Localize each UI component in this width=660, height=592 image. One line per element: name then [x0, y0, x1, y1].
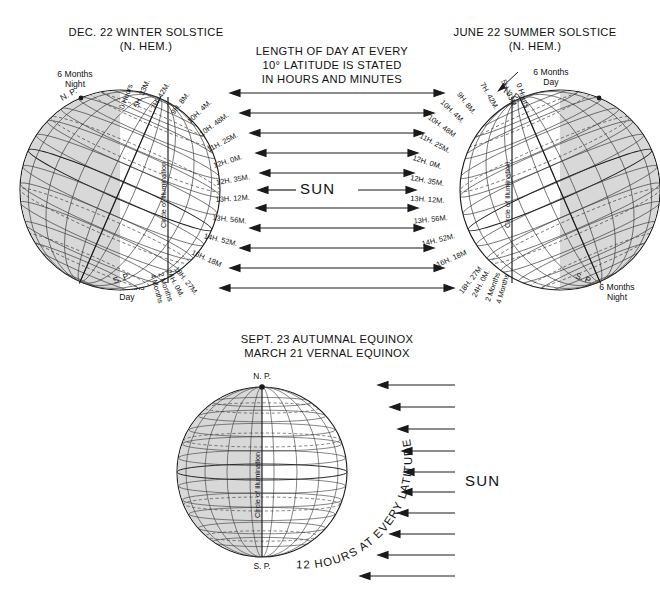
north-pole-dot-winter — [79, 96, 84, 101]
sun-ray — [332, 245, 434, 252]
terminator-label-winter: Circle of illumination — [160, 162, 168, 228]
sun-ray — [332, 150, 418, 157]
sun-ray — [404, 469, 455, 476]
diagram-canvas: DEC. 22 WINTER SOLSTICE (N. HEM.) JUNE 2… — [0, 0, 660, 592]
sun-ray — [240, 110, 332, 117]
terminator-label-summer: Circle of illumination — [504, 162, 512, 228]
sun-ray — [332, 170, 414, 177]
sun-ray — [390, 531, 455, 538]
sun-ray — [230, 90, 332, 97]
sun-ray — [258, 187, 296, 194]
sun-ray — [398, 510, 455, 517]
north-pole-dot-equinox — [259, 384, 265, 390]
sun-ray — [402, 448, 455, 455]
sun-ray — [332, 110, 434, 117]
sun-ray — [332, 225, 424, 232]
sun-ray-group-winter — [220, 90, 332, 292]
sun-ray — [230, 265, 332, 272]
diagram-artwork — [0, 0, 660, 592]
sun-ray — [402, 489, 455, 496]
sun-ray — [256, 205, 332, 212]
sun-ray — [260, 170, 332, 177]
sun-ray — [360, 573, 455, 580]
terminator-label-equinox: Circle of illumination — [254, 452, 262, 518]
sun-ray — [332, 130, 424, 137]
sun-ray — [378, 382, 455, 389]
sun-ray — [250, 130, 332, 137]
sun-ray — [332, 265, 444, 272]
sun-ray — [332, 205, 418, 212]
north-pole-dot-summer — [597, 96, 602, 101]
south-pole-label-equinox: S. P. — [253, 562, 270, 571]
sun-ray — [390, 404, 455, 411]
sun-ray — [220, 285, 332, 292]
sun-ray — [332, 285, 454, 292]
sun-ray — [240, 245, 332, 252]
sun-ray — [398, 426, 455, 433]
sun-ray — [256, 150, 332, 157]
sun-ray — [332, 90, 444, 97]
north-pole-label-equinox: N. P. — [253, 372, 271, 381]
sun-ray-group-equinox — [360, 382, 455, 580]
sun-ray — [250, 225, 332, 232]
sun-ray — [378, 552, 455, 559]
sun-ray — [358, 187, 416, 194]
